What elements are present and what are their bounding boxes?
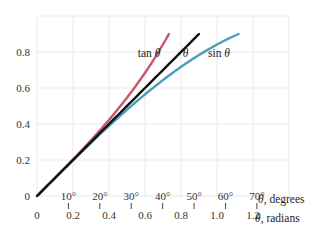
y-tick-label: 0.6 [16,82,30,94]
x-axis-label-radians: θ, radians [255,212,300,225]
degree-tick-label: 20° [92,190,107,202]
y-tick-label: 0.4 [16,118,30,130]
x-tick-label: 0.8 [174,209,188,221]
x-tick-label: 0 [34,209,40,221]
degree-tick-label: 60° [218,190,233,202]
degree-tick-label: 10° [61,190,76,202]
degree-tick-label: 30° [124,190,139,202]
x-tick-label: 0.4 [102,209,116,221]
degree-tick-label: 40° [155,190,170,202]
degree-tick-label: 50° [186,190,201,202]
x-axis-label-degrees: θ, degrees [258,193,305,206]
y-tick-label: 0.8 [16,46,30,58]
y-tick-label: 0 [25,190,31,202]
curve-labels: tan θθsin θ [138,47,230,59]
curve-label: θ [183,47,189,59]
y-axis-ticks: 00.20.40.60.8 [16,46,30,202]
y-tick-label: 0.2 [16,154,30,166]
chart: 00.20.40.60.8 00.20.40.60.81.01.2 10°20°… [0,0,328,226]
x-tick-label: 0.2 [66,209,80,221]
x-tick-label: 0.6 [138,209,152,221]
x-tick-label: 1.0 [210,209,224,221]
curve-label: tan θ [138,47,161,59]
x-axis-degree-ticks: 10°20°30°40°50°60°70° [61,190,265,209]
x-axis-radian-ticks: 00.20.40.60.81.01.2 [34,209,260,221]
curve-label: sin θ [208,47,230,59]
series-theta-line [37,34,199,196]
